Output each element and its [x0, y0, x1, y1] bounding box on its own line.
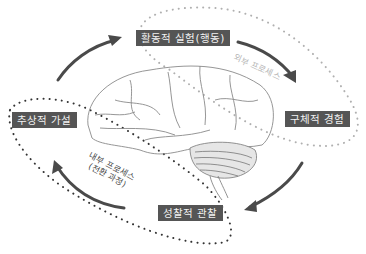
- node-concrete-experience: 구체적 경험: [285, 111, 350, 127]
- arrowhead-icon: [244, 200, 257, 212]
- node-active-experimentation: 활동적 실험(행동): [136, 30, 230, 46]
- arrow-left-to-top: [58, 40, 116, 80]
- brain-illustration: [88, 66, 274, 154]
- arrow-right-to-bottom: [250, 163, 302, 207]
- node-abstract-hypothesis: 추상적 가설: [12, 112, 77, 128]
- learning-cycle-diagram: 활동적 실험(행동) 구체적 경험 성찰적 관찰 추상적 가설 외부 프로세스 …: [0, 0, 366, 254]
- cerebellum-illustration: [190, 142, 257, 200]
- node-reflective-observation: 성찰적 관찰: [158, 205, 223, 221]
- arrowhead-icon: [108, 35, 122, 46]
